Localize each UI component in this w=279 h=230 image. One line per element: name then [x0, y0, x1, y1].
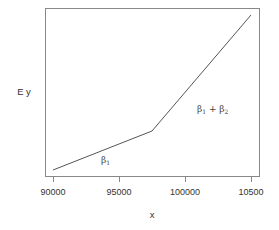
- y-axis-label: E y: [17, 86, 31, 97]
- x-axis-label: x: [150, 209, 155, 220]
- x-tick-label: 10500: [238, 187, 263, 197]
- x-tick-label: 100000: [170, 187, 200, 197]
- plot-frame: [46, 9, 260, 177]
- chart: 90000 95000 100000 10500 x E y β1 β1 + β…: [0, 0, 279, 230]
- x-axis: [54, 177, 252, 182]
- x-tick-label: 95000: [106, 187, 131, 197]
- x-tick-label: 90000: [40, 187, 65, 197]
- piecewise-line: [53, 15, 251, 170]
- annotation-beta1-plus-beta2: β1 + β2: [197, 104, 229, 115]
- annotation-beta1: β1: [101, 155, 110, 166]
